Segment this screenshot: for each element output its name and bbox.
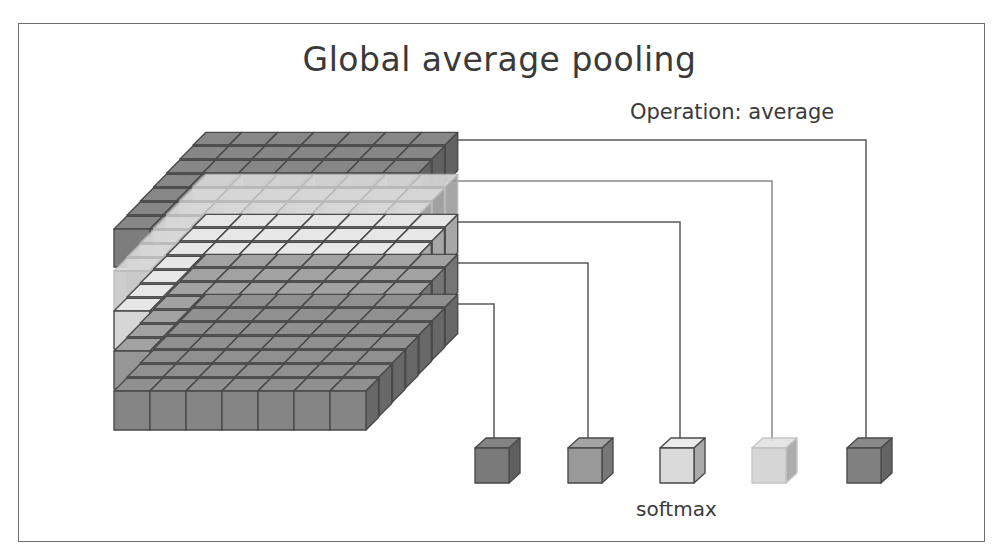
diagram-canvas: Global average pooling Operation: averag… bbox=[0, 0, 999, 557]
connector-line-5 bbox=[441, 140, 866, 442]
output-cube-3 bbox=[660, 438, 705, 483]
connector-line-3 bbox=[441, 222, 680, 442]
connector-lines bbox=[441, 140, 866, 442]
feature-map-illustration bbox=[0, 0, 999, 557]
output-cube-4 bbox=[752, 438, 797, 483]
output-cube-1 bbox=[475, 438, 520, 483]
connector-line-4 bbox=[441, 181, 772, 442]
feature-map-cube bbox=[114, 132, 458, 430]
operation-label: Operation: average bbox=[630, 100, 834, 124]
connector-line-2 bbox=[441, 263, 588, 442]
output-cube-2 bbox=[568, 438, 613, 483]
output-cube-5 bbox=[847, 438, 892, 483]
softmax-label: softmax bbox=[636, 497, 717, 521]
output-vector bbox=[475, 438, 892, 483]
diagram-title: Global average pooling bbox=[0, 40, 999, 79]
